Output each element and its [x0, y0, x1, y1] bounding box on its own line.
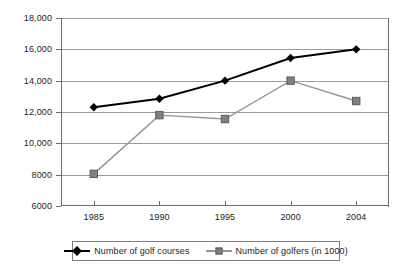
- y-axis-label: 8000: [0, 170, 52, 180]
- y-axis-tick: [56, 143, 61, 144]
- x-axis-label: 1995: [215, 212, 235, 222]
- plot-area: [61, 18, 389, 206]
- square-marker-icon: [206, 246, 232, 256]
- x-axis-tick: [159, 201, 160, 206]
- y-axis-tick: [56, 206, 61, 207]
- plot-right-edge: [388, 18, 389, 207]
- gridline-top: [62, 18, 389, 19]
- gridline: [62, 49, 389, 50]
- y-axis-label: 14,000: [0, 76, 52, 86]
- x-axis-tick: [225, 201, 226, 206]
- gridline: [62, 143, 389, 144]
- y-axis-label: 16,000: [0, 44, 52, 54]
- y-axis-tick: [56, 18, 61, 19]
- y-axis-label: 6000: [0, 201, 52, 211]
- y-axis-label: 18,000: [0, 13, 52, 23]
- y-axis-tick: [56, 49, 61, 50]
- y-axis-tick: [56, 175, 61, 176]
- gridline: [62, 175, 389, 176]
- y-axis-tick: [56, 81, 61, 82]
- x-axis-label: 1990: [149, 212, 169, 222]
- x-axis-tick: [356, 201, 357, 206]
- legend-item-golf-courses: Number of golf courses: [64, 246, 189, 256]
- diamond-marker-icon: [64, 246, 90, 256]
- x-axis-tick: [291, 201, 292, 206]
- y-axis-label: 10,000: [0, 138, 52, 148]
- x-axis-label: 1985: [84, 212, 104, 222]
- legend-item-golfers: Number of golfers (in 1000): [206, 246, 348, 256]
- x-axis-label: 2000: [280, 212, 300, 222]
- golf-line-chart: 18,00016,00014,00012,00010,00080006000 1…: [0, 0, 407, 269]
- x-axis-label: 2004: [346, 212, 366, 222]
- y-axis-tick: [56, 112, 61, 113]
- legend-label-golfers: Number of golfers (in 1000): [236, 246, 348, 256]
- gridline: [62, 112, 389, 113]
- chart-legend: Number of golf courses Number of golfers…: [72, 241, 340, 261]
- gridline: [62, 81, 389, 82]
- y-axis-label: 12,000: [0, 107, 52, 117]
- x-axis-tick: [94, 201, 95, 206]
- legend-label-golf-courses: Number of golf courses: [94, 246, 189, 256]
